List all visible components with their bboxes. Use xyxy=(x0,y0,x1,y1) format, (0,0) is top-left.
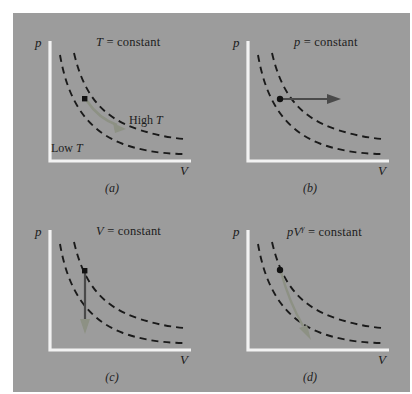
state-dot-d xyxy=(277,267,283,273)
panel-a: T = constant p V High T Low T (a) xyxy=(13,13,211,202)
isotherm-high-c xyxy=(74,242,185,328)
panel-a-caption: (a) xyxy=(13,181,211,196)
figure-plate: T = constant p V High T Low T (a) p = co… xyxy=(13,13,410,392)
panel-b-title: p = constant xyxy=(294,35,358,50)
curve-label-high-t: High T xyxy=(129,113,163,128)
panel-b-x-axis-label: V xyxy=(378,163,386,179)
panel-c-y-axis-label: p xyxy=(35,224,42,240)
curve-label-low-t: Low T xyxy=(51,141,83,156)
isotherm-high-d xyxy=(272,242,383,328)
panel-b: p = constant p V (b) xyxy=(211,13,409,202)
state-dot-a xyxy=(82,96,87,101)
process-arrow-head-b xyxy=(327,94,341,104)
panel-d-caption: (d) xyxy=(211,370,409,385)
panel-d-title: pVγ = constant xyxy=(287,224,362,240)
process-arrow-head-c xyxy=(80,319,90,334)
state-dot-b xyxy=(277,96,283,102)
panel-a-y-axis-label: p xyxy=(35,35,42,51)
panel-d: pVγ = constant p V (d) xyxy=(211,202,409,391)
process-arrow-line-d xyxy=(281,272,303,326)
figure-page: T = constant p V High T Low T (a) p = co… xyxy=(0,0,412,394)
panel-c: V = constant p V (c) xyxy=(13,202,211,391)
panel-b-y-axis-label: p xyxy=(233,35,240,51)
state-dot-c xyxy=(82,268,87,273)
panel-d-x-axis-label: V xyxy=(378,352,386,368)
process-arrow-line-a xyxy=(87,101,117,125)
panel-a-title: T = constant xyxy=(96,35,160,50)
panel-c-title: V = constant xyxy=(96,224,161,239)
panel-b-caption: (b) xyxy=(211,181,409,196)
panel-a-x-axis-label: V xyxy=(180,163,188,179)
panel-c-x-axis-label: V xyxy=(180,352,188,368)
panel-c-caption: (c) xyxy=(13,370,211,385)
panel-d-y-axis-label: p xyxy=(233,224,240,240)
